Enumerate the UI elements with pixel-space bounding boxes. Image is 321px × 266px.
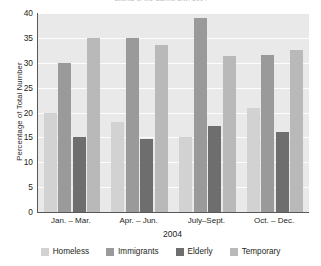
chart-title: Clients of the Caring City: 2004 xyxy=(0,0,321,1)
legend-swatch-icon xyxy=(106,248,114,256)
legend-item: Temporary xyxy=(230,247,281,256)
y-axis-tick-label: 15 xyxy=(3,133,33,141)
bar xyxy=(290,50,303,212)
bar xyxy=(261,55,274,212)
bar xyxy=(194,18,207,212)
y-axis-tick-label: 25 xyxy=(3,84,33,92)
bar-group xyxy=(38,13,106,212)
y-axis-tick-label: 10 xyxy=(3,158,33,166)
bar-group xyxy=(174,13,242,212)
y-axis-tick-label: 20 xyxy=(3,109,33,117)
x-axis-tick-label: Oct. – Dec. xyxy=(229,216,319,225)
bar xyxy=(111,122,124,212)
bar xyxy=(247,108,260,212)
legend-item: Elderly xyxy=(176,247,213,256)
y-axis-tick-label: 40 xyxy=(3,9,33,17)
bar xyxy=(73,137,86,212)
y-axis-tick-label: 30 xyxy=(3,59,33,67)
y-axis-tick-label: 5 xyxy=(3,183,33,191)
bar xyxy=(179,137,192,212)
bar-chart-figure: Clients of the Caring City: 2004 Percent… xyxy=(0,0,321,266)
bar xyxy=(58,63,71,212)
legend-swatch-icon xyxy=(176,248,184,256)
bar xyxy=(155,45,168,212)
legend-swatch-icon xyxy=(230,248,238,256)
legend-item: Immigrants xyxy=(106,247,159,256)
bar-group xyxy=(106,13,174,212)
plot-area xyxy=(37,13,309,213)
legend-item: Homeless xyxy=(41,247,89,256)
bar-group xyxy=(241,13,309,212)
bar xyxy=(223,56,236,212)
bar xyxy=(140,139,153,212)
legend-label: Homeless xyxy=(53,247,89,256)
bar xyxy=(208,126,221,212)
bar xyxy=(276,132,289,212)
x-axis-title: 2004 xyxy=(37,229,308,239)
y-axis-tick-label: 35 xyxy=(3,34,33,42)
legend-label: Elderly xyxy=(188,247,213,256)
chart-legend: HomelessImmigrantsElderlyTemporary xyxy=(0,247,321,256)
legend-swatch-icon xyxy=(41,248,49,256)
bar xyxy=(44,113,57,213)
legend-label: Temporary xyxy=(242,247,281,256)
bar xyxy=(87,38,100,212)
legend-label: Immigrants xyxy=(118,247,159,256)
bar xyxy=(126,38,139,212)
